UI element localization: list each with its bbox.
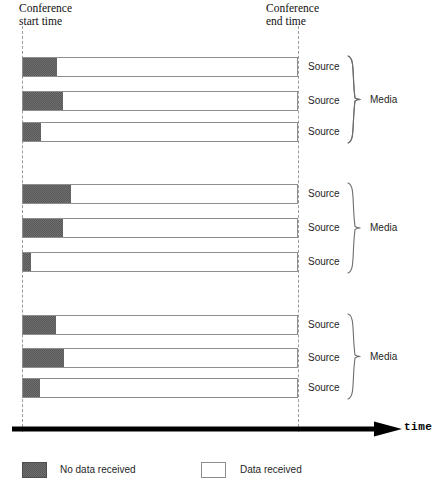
no-data-segment (23, 92, 63, 110)
media-group-label: Media (370, 221, 397, 235)
timeline-figure: Conference start time Conference end tim… (0, 0, 434, 496)
source-label: Source (308, 348, 340, 368)
time-axis-label: time (404, 421, 432, 433)
no-data-segment (23, 379, 40, 397)
no-data-segment (23, 253, 31, 271)
source-label: Source (308, 91, 340, 111)
no-data-segment (23, 316, 56, 334)
source-label: Source (308, 218, 340, 238)
bar-row (22, 378, 298, 398)
media-group-brace (346, 182, 362, 274)
no-data-segment (23, 349, 64, 367)
conference-end-guideline (298, 26, 299, 432)
conference-start-time-caption: Conference start time (19, 2, 72, 27)
no-data-segment (23, 219, 63, 237)
conference-end-time-caption: Conference end time (266, 2, 319, 27)
no-data-segment (23, 123, 41, 141)
bar-row (22, 184, 298, 204)
legend-label-no-data: No data received (60, 462, 136, 478)
legend-label-data: Data received (240, 462, 302, 478)
bar-row (22, 218, 298, 238)
bar-row (22, 122, 298, 142)
bar-row (22, 348, 298, 368)
media-group-label: Media (370, 93, 397, 107)
media-group-label: Media (370, 350, 397, 364)
no-data-segment (23, 58, 57, 76)
time-axis (12, 420, 402, 438)
bar-row (22, 315, 298, 335)
source-label: Source (308, 184, 340, 204)
source-label: Source (308, 57, 340, 77)
source-label: Source (308, 378, 340, 398)
bar-row (22, 91, 298, 111)
source-label: Source (308, 315, 340, 335)
media-group-brace (346, 313, 362, 400)
bar-row (22, 57, 298, 77)
no-data-segment (23, 185, 71, 203)
legend-swatch-no-data (22, 462, 47, 478)
bar-row (22, 252, 298, 272)
media-group-brace (346, 55, 362, 144)
legend-swatch-data (201, 462, 226, 478)
source-label: Source (308, 122, 340, 142)
source-label: Source (308, 252, 340, 272)
